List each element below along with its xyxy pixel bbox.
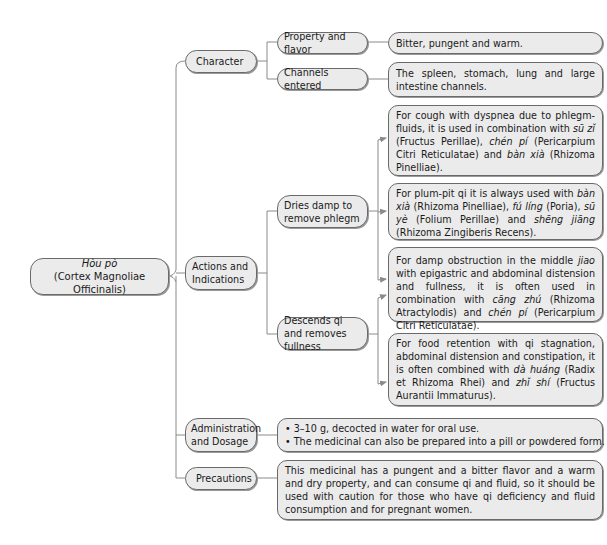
node-admin-label: Administration and Dosage <box>191 422 261 448</box>
detail-food-retention: For food retention with qi stagnation, a… <box>388 333 603 406</box>
detail-property-flavor-text: Bitter, pungent and warm. <box>396 37 523 50</box>
node-precautions: Precautions <box>185 467 257 490</box>
detail-administration-dosage: • 3–10 g, decocted in water for oral use… <box>277 418 603 452</box>
detail-channels-entered: The spleen, stomach, lung and large inte… <box>388 62 603 97</box>
node-property-flavor-label: Property and flavor <box>284 30 361 56</box>
dosage-bullet-2: • The medicinal can also be prepared int… <box>285 435 595 448</box>
detail-channels-text: The spleen, stomach, lung and large inte… <box>396 68 595 92</box>
root-title: Hòu pò <box>82 257 118 270</box>
node-dries-damp: Dries damp to remove phlegm <box>277 195 368 228</box>
node-property-flavor: Property and flavor <box>277 32 368 54</box>
node-character-label: Character <box>196 55 243 68</box>
dosage-bullet-1: • 3–10 g, decocted in water for oral use… <box>285 422 595 435</box>
detail-precautions-text: This medicinal has a pungent and a bitte… <box>285 465 595 515</box>
node-descends-qi: Descends qi and removes fullness <box>277 317 368 350</box>
node-dries-damp-label: Dries damp to remove phlegm <box>284 199 361 225</box>
detail-precautions: This medicinal has a pungent and a bitte… <box>277 460 603 520</box>
detail-damp-obstruction: For damp obstruction in the middle jiao … <box>388 247 603 322</box>
detail-plum-pit-qi: For plum-pit qi it is always used with b… <box>388 183 603 240</box>
node-descends-qi-label: Descends qi and removes fullness <box>284 314 361 353</box>
node-actions-indications: Actions and Indications <box>185 256 257 290</box>
root-subtitle: (Cortex Magnoliae Officinalis) <box>41 270 158 296</box>
node-actions-label: Actions and Indications <box>192 260 250 286</box>
node-character: Character <box>185 50 257 73</box>
detail-property-flavor: Bitter, pungent and warm. <box>388 32 603 54</box>
node-administration-dosage: Administration and Dosage <box>185 418 257 452</box>
root-node: Hòu pò (Cortex Magnoliae Officinalis) <box>30 258 169 295</box>
node-channels-label: Channels entered <box>284 66 361 92</box>
detail-cough-dyspnea: For cough with dyspnea due to phlegm-flu… <box>388 105 603 176</box>
node-precautions-label: Precautions <box>196 472 252 485</box>
node-channels-entered: Channels entered <box>277 68 368 90</box>
